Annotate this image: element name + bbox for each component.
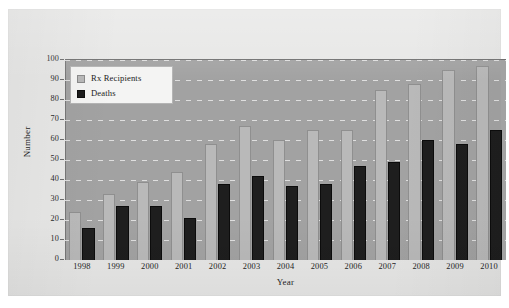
- bar-deaths-2003: [252, 176, 264, 260]
- bar-rx-recipients-1999: [103, 194, 115, 260]
- bar-rx-recipients-2000: [137, 182, 149, 260]
- bar-rx-recipients-2008: [408, 84, 420, 260]
- bar-deaths-2002: [218, 184, 230, 260]
- y-tick-mark: [60, 119, 64, 120]
- y-tick-mark: [60, 59, 64, 60]
- x-tick-2000: 2000: [133, 262, 167, 271]
- bar-rx-recipients-2004: [273, 140, 285, 260]
- bar-deaths-2005: [320, 184, 332, 260]
- y-tick-mark: [60, 199, 64, 200]
- bar-deaths-2006: [354, 166, 366, 260]
- bar-deaths-2007: [388, 162, 400, 260]
- legend-label-rx-recipients: Rx Recipients: [91, 74, 141, 83]
- bar-deaths-2000: [150, 206, 162, 260]
- x-tick-1998: 1998: [65, 262, 99, 271]
- bar-deaths-2009: [456, 144, 468, 260]
- bar-deaths-1999: [116, 206, 128, 260]
- y-tick-mark: [60, 179, 64, 180]
- x-tick-2010: 2010: [472, 262, 506, 271]
- legend-swatch-rx-recipients-icon: [77, 75, 85, 83]
- bar-deaths-2001: [184, 218, 196, 260]
- x-tick-2004: 2004: [269, 262, 303, 271]
- x-tick-2009: 2009: [438, 262, 472, 271]
- legend-label-deaths: Deaths: [91, 89, 116, 98]
- x-tick-2007: 2007: [370, 262, 404, 271]
- y-tick-mark: [60, 219, 64, 220]
- y-axis-title: Number: [22, 107, 32, 177]
- bar-rx-recipients-2009: [442, 70, 454, 260]
- bar-rx-recipients-1998: [69, 212, 81, 260]
- y-tick-mark: [60, 99, 64, 100]
- x-tick-1999: 1999: [99, 262, 133, 271]
- y-tick-mark: [60, 79, 64, 80]
- x-tick-2005: 2005: [302, 262, 336, 271]
- bar-deaths-2010: [490, 130, 502, 260]
- x-tick-2006: 2006: [336, 262, 370, 271]
- legend-entry-rx-recipients: Rx Recipients: [77, 71, 167, 86]
- legend-entry-deaths: Deaths: [77, 86, 167, 101]
- bar-rx-recipients-2002: [205, 144, 217, 260]
- bar-rx-recipients-2001: [171, 172, 183, 260]
- bar-rx-recipients-2003: [239, 126, 251, 260]
- y-tick-mark: [60, 259, 64, 260]
- x-tick-2008: 2008: [404, 262, 438, 271]
- bar-rx-recipients-2005: [307, 130, 319, 260]
- x-axis-title: Year: [65, 277, 506, 287]
- y-tick-mark: [60, 139, 64, 140]
- bar-rx-recipients-2010: [476, 66, 488, 260]
- x-tick-2001: 2001: [167, 262, 201, 271]
- y-tick-mark: [60, 159, 64, 160]
- bar-deaths-2008: [422, 140, 434, 260]
- scanned-page-background: 100 90 80 70 60 50 40 30 20 10 0 Number: [8, 9, 501, 296]
- x-tick-2002: 2002: [201, 262, 235, 271]
- x-tick-2003: 2003: [235, 262, 269, 271]
- y-tick-mark: [60, 239, 64, 240]
- legend-swatch-deaths-icon: [77, 90, 85, 98]
- y-axis-tick-marks: [8, 59, 68, 259]
- chart-legend: Rx Recipients Deaths: [70, 66, 173, 104]
- bar-deaths-1998: [82, 228, 94, 260]
- x-axis-tick-labels: 1998199920002001200220032004200520062007…: [65, 262, 506, 276]
- figure-container: 100 90 80 70 60 50 40 30 20 10 0 Number: [0, 0, 509, 308]
- bar-rx-recipients-2006: [341, 130, 353, 260]
- bar-deaths-2004: [286, 186, 298, 260]
- bar-rx-recipients-2007: [375, 90, 387, 260]
